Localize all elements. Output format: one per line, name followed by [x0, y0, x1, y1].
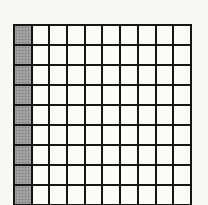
grid-cell	[33, 146, 49, 164]
grid-cell	[157, 186, 173, 204]
grid-cell	[139, 66, 155, 84]
grid-cell	[103, 126, 119, 144]
grid-cell	[103, 26, 119, 44]
grid-cell	[103, 166, 119, 184]
grid-cell	[68, 186, 84, 204]
grid-cell	[33, 26, 49, 44]
grid-cell	[50, 126, 66, 144]
grid-cell	[86, 126, 102, 144]
grid-cell	[33, 106, 49, 124]
grid-cell	[157, 106, 173, 124]
grid-cell	[33, 46, 49, 64]
grid-cell	[139, 126, 155, 144]
hundred-grid	[13, 24, 192, 205]
grid-cell	[68, 66, 84, 84]
grid-cell	[157, 86, 173, 104]
grid-cell	[86, 86, 102, 104]
grid-cell	[121, 146, 137, 164]
grid-cell-shaded	[15, 186, 31, 204]
grid-cell	[174, 186, 190, 204]
grid-cell	[103, 186, 119, 204]
grid-cell-shaded	[15, 66, 31, 84]
grid-cell	[103, 86, 119, 104]
grid-cell	[86, 106, 102, 124]
grid-cell	[68, 46, 84, 64]
grid-cell	[50, 166, 66, 184]
grid-cell	[68, 126, 84, 144]
grid-cell	[68, 146, 84, 164]
grid-cell	[121, 126, 137, 144]
grid-cell	[68, 86, 84, 104]
grid-cell	[50, 106, 66, 124]
grid-cell	[157, 146, 173, 164]
grid-cell	[86, 146, 102, 164]
grid-cell-shaded	[15, 126, 31, 144]
grid-cell	[121, 26, 137, 44]
grid-cell	[103, 146, 119, 164]
diagram-canvas	[0, 0, 208, 205]
grid-cell	[157, 26, 173, 44]
grid-cell	[50, 86, 66, 104]
grid-cell-shaded	[15, 86, 31, 104]
grid-cell	[139, 166, 155, 184]
grid-cell-shaded	[15, 146, 31, 164]
grid-cell	[121, 66, 137, 84]
grid-cell	[139, 26, 155, 44]
grid-cell	[157, 66, 173, 84]
grid-cell	[139, 106, 155, 124]
grid-cell	[103, 46, 119, 64]
grid-cell	[50, 146, 66, 164]
grid-cell	[68, 166, 84, 184]
grid-cell-shaded	[15, 26, 31, 44]
grid-cell	[174, 106, 190, 124]
grid-cell	[121, 86, 137, 104]
grid-cell	[174, 166, 190, 184]
grid-cell	[139, 86, 155, 104]
grid-cell	[139, 146, 155, 164]
grid-cell	[121, 186, 137, 204]
grid-cell	[174, 146, 190, 164]
grid-cell	[33, 86, 49, 104]
grid-cell	[86, 66, 102, 84]
grid-cell	[103, 66, 119, 84]
grid-cell	[157, 126, 173, 144]
grid-cell	[157, 166, 173, 184]
grid-cell	[33, 186, 49, 204]
grid-cell-shaded	[15, 166, 31, 184]
grid-cell	[33, 126, 49, 144]
grid-cell	[68, 26, 84, 44]
grid-cell	[174, 46, 190, 64]
grid-cell	[121, 46, 137, 64]
grid-cell-shaded	[15, 46, 31, 64]
grid-cell	[139, 186, 155, 204]
grid-cell	[50, 66, 66, 84]
grid-cell	[139, 46, 155, 64]
grid-cell	[50, 26, 66, 44]
grid-cell	[86, 186, 102, 204]
grid-cell	[50, 186, 66, 204]
grid-cell	[174, 66, 190, 84]
grid-cell-shaded	[15, 106, 31, 124]
grid-cell	[33, 66, 49, 84]
grid-cell	[174, 86, 190, 104]
grid-cell	[86, 26, 102, 44]
grid-cell	[86, 166, 102, 184]
grid-cell	[33, 166, 49, 184]
grid-cell	[121, 166, 137, 184]
grid-cell	[174, 26, 190, 44]
grid-cell	[157, 46, 173, 64]
grid-cell	[68, 106, 84, 124]
grid-cell	[103, 106, 119, 124]
grid-cell	[50, 46, 66, 64]
grid-cell	[174, 126, 190, 144]
grid-cell	[121, 106, 137, 124]
grid-cell	[86, 46, 102, 64]
